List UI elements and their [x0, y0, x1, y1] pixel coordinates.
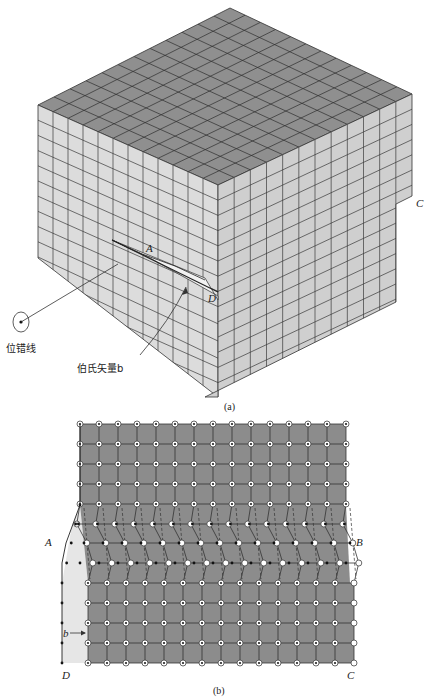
- lattice-atom-below: [155, 562, 158, 565]
- label-a-D: D: [207, 292, 216, 304]
- lattice-atom-below: [96, 523, 99, 526]
- lattice-atom: [351, 620, 357, 626]
- lattice-atom-below: [134, 523, 137, 526]
- lattice-atom: [185, 560, 191, 566]
- lattice-atom: [109, 560, 115, 566]
- lattice-atom: [242, 560, 248, 566]
- lattice-atom-below: [273, 542, 276, 545]
- lattice-atom: [351, 640, 357, 646]
- lattice-atom-below: [210, 523, 213, 526]
- lattice-atom-below: [267, 523, 270, 526]
- label-a-A: A: [145, 242, 153, 254]
- lattice-atom-below: [178, 542, 181, 545]
- panel-a-cube: A D C 位错线 伯氏矢量b (a): [6, 8, 424, 413]
- lattice-atom-below: [288, 562, 291, 565]
- label-b-b: b: [63, 627, 69, 639]
- lattice-atom-below: [305, 523, 308, 526]
- lattice-atom-below: [343, 523, 346, 526]
- lattice-atom-below: [159, 542, 162, 545]
- lattice-atom-below: [212, 562, 215, 565]
- lattice-atom-below: [102, 542, 105, 545]
- lattice-atom: [128, 560, 134, 566]
- label-burgers-vector: 伯氏矢量b: [77, 362, 123, 374]
- lattice-atom-below: [307, 562, 310, 565]
- lattice-atom-below: [174, 562, 177, 565]
- lattice-atom-below: [326, 562, 329, 565]
- lattice-atom-below: [117, 562, 120, 565]
- lattice-atom-below: [248, 523, 251, 526]
- lattice-atom-below: [250, 562, 253, 565]
- lattice-distorted-block: [80, 505, 350, 583]
- lattice-atom: [223, 560, 229, 566]
- lattice-atom: [299, 560, 305, 566]
- label-b-C: C: [347, 669, 355, 681]
- lattice-atom: [166, 560, 172, 566]
- panel-b-lattice: A B D C b (b): [44, 421, 363, 697]
- label-a-C: C: [416, 197, 424, 209]
- lattice-atom: [204, 560, 210, 566]
- lattice-atom-below: [136, 562, 139, 565]
- lattice-atom-below: [254, 542, 257, 545]
- lattice-atom-below: [292, 542, 295, 545]
- lattice-atom-below: [65, 562, 68, 565]
- lattice-atom: [261, 560, 267, 566]
- lattice-atom: [351, 660, 357, 666]
- lattice-atom-below: [74, 523, 77, 526]
- lattice-atom-below: [345, 562, 348, 565]
- lattice-atom-below: [193, 562, 196, 565]
- caption-b: (b): [213, 685, 225, 697]
- lattice-atom-below: [70, 542, 73, 545]
- lattice-atom: [351, 600, 357, 606]
- lattice-atom-below: [140, 542, 143, 545]
- lattice-atom-below: [324, 523, 327, 526]
- lattice-atom-below: [231, 562, 234, 565]
- lattice-atom-below: [77, 523, 80, 526]
- lattice-atom-below: [153, 523, 156, 526]
- lattice-atom-below: [115, 523, 118, 526]
- lattice-atom-below: [121, 542, 124, 545]
- lattice-atom-below: [191, 523, 194, 526]
- lattice-atom-below: [79, 562, 82, 565]
- lattice-atom-below: [235, 542, 238, 545]
- lattice-atom: [337, 560, 343, 566]
- lattice-atom-below: [197, 542, 200, 545]
- label-b-A: A: [44, 536, 52, 548]
- label-b-D: D: [61, 669, 70, 681]
- lattice-atom-below: [229, 523, 232, 526]
- lattice-atom-below: [330, 542, 333, 545]
- lattice-atom-below: [98, 562, 101, 565]
- lattice-atom: [280, 560, 286, 566]
- lattice-atom: [318, 560, 324, 566]
- lattice-atom-below: [83, 542, 86, 545]
- lattice-atom-below: [286, 523, 289, 526]
- lattice-atom: [90, 560, 96, 566]
- screw-dislocation-figure: A D C 位错线 伯氏矢量b (a) A B D C b (b): [0, 0, 428, 698]
- lattice-atom: [356, 560, 362, 566]
- lattice-atom-below: [311, 542, 314, 545]
- lattice-atom: [351, 580, 357, 586]
- label-b-B: B: [356, 536, 363, 548]
- lattice-atom-below: [216, 542, 219, 545]
- lattice-atom-below: [172, 523, 175, 526]
- lattice-atom-below: [269, 562, 272, 565]
- label-dislocation-line: 位错线: [6, 342, 36, 354]
- caption-a: (a): [224, 401, 235, 413]
- lattice-atom-below: [349, 542, 352, 545]
- lattice-atom: [147, 560, 153, 566]
